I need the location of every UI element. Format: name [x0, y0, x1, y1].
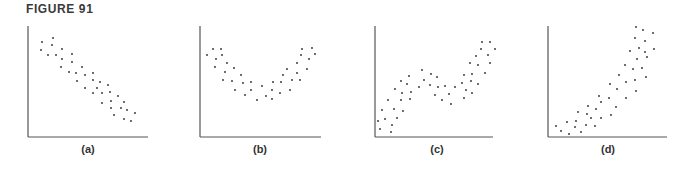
data-point [394, 88, 396, 90]
data-point [110, 107, 112, 109]
data-point [618, 74, 620, 76]
data-point [625, 81, 627, 83]
data-point [123, 118, 125, 120]
data-point [393, 108, 395, 110]
data-point [421, 69, 423, 71]
data-point [377, 120, 379, 122]
data-point [487, 54, 489, 56]
data-point [101, 102, 103, 104]
data-point [113, 114, 115, 116]
data-point [306, 68, 308, 70]
data-point [408, 75, 410, 77]
data-point [600, 101, 602, 103]
data-point [450, 103, 452, 105]
data-point [634, 79, 636, 81]
scatter-plot-d [548, 26, 667, 137]
data-point [644, 51, 646, 53]
data-point [437, 86, 439, 88]
data-point [653, 48, 655, 50]
panel-label-c: (c) [417, 143, 457, 155]
data-point [107, 84, 109, 86]
data-point [84, 74, 86, 76]
data-point [470, 80, 472, 82]
data-point [635, 26, 637, 28]
data-point [652, 32, 654, 34]
data-point [409, 98, 411, 100]
data-point [272, 81, 274, 83]
data-point [214, 66, 216, 68]
data-point [384, 118, 386, 120]
data-point [311, 47, 313, 49]
data-point [224, 71, 226, 73]
data-point [250, 81, 252, 83]
data-point [441, 99, 443, 101]
data-point [92, 72, 94, 74]
data-point [418, 86, 420, 88]
data-point [299, 79, 301, 81]
data-point [117, 95, 119, 97]
data-point [646, 56, 648, 58]
data-point [610, 114, 612, 116]
data-point [244, 94, 246, 96]
data-point [590, 117, 592, 119]
data-point [286, 68, 288, 70]
data-point [61, 58, 63, 60]
data-point [423, 79, 425, 81]
data-point [400, 80, 402, 82]
data-point [240, 74, 242, 76]
data-point [465, 89, 467, 91]
data-point [463, 74, 465, 76]
data-point [265, 95, 267, 97]
data-point [594, 125, 596, 127]
data-point [575, 120, 577, 122]
data-point [99, 81, 101, 83]
panel-label-d: (d) [588, 143, 628, 155]
data-point [595, 108, 597, 110]
data-point [598, 95, 600, 97]
data-point [221, 54, 223, 56]
data-point [234, 89, 236, 91]
data-point [580, 131, 582, 133]
data-point [471, 92, 473, 94]
data-point [629, 50, 631, 52]
data-point [296, 72, 298, 74]
data-point [429, 84, 431, 86]
data-point [314, 53, 316, 55]
data-point [494, 48, 496, 50]
data-point [489, 41, 491, 43]
data-point [51, 44, 53, 46]
data-point [406, 83, 408, 85]
data-point [642, 29, 644, 31]
data-point [475, 55, 477, 57]
scatter-plot-c [375, 26, 496, 137]
scatter-plot-b [200, 26, 321, 137]
data-point [81, 66, 83, 68]
data-point [222, 79, 224, 81]
data-point [444, 85, 446, 87]
data-point [300, 54, 302, 56]
data-point [448, 93, 450, 95]
data-point [636, 58, 638, 60]
data-point [641, 67, 643, 69]
data-point [387, 99, 389, 101]
data-point [430, 73, 432, 75]
data-point [308, 58, 310, 60]
data-point [68, 71, 70, 73]
data-point [261, 85, 263, 87]
data-point [638, 47, 640, 49]
data-point [609, 83, 611, 85]
data-point [577, 111, 579, 113]
data-point [231, 80, 233, 82]
data-point [271, 98, 273, 100]
data-point [390, 131, 392, 133]
panel-label-a: (a) [68, 143, 108, 155]
data-point [477, 83, 479, 85]
data-point [271, 89, 273, 91]
data-point [291, 79, 293, 81]
data-point [226, 62, 228, 64]
data-point [109, 91, 111, 93]
data-point [75, 72, 77, 74]
data-point [625, 97, 627, 99]
panel-label-b: (b) [240, 143, 280, 155]
data-point [381, 109, 383, 111]
